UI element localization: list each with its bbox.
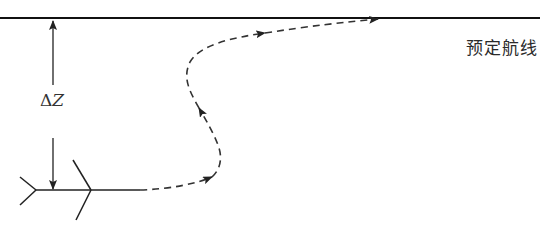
aircraft-icon [20, 160, 140, 220]
offset-label: ΔZ [40, 90, 64, 110]
offset-variable: Z [52, 90, 64, 110]
flight-path [140, 19, 378, 190]
planned-route-label: 预定航线 [466, 34, 538, 59]
delta-symbol: Δ [40, 90, 52, 110]
